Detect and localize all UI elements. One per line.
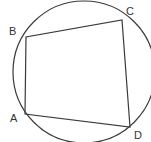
- label-a: A: [10, 112, 18, 124]
- label-b: B: [9, 25, 16, 37]
- label-c: C: [126, 5, 134, 17]
- label-d: D: [134, 129, 142, 141]
- cyclic-quadrilateral-diagram: A B C D: [0, 0, 151, 142]
- quadrilateral-abcd: [25, 20, 130, 127]
